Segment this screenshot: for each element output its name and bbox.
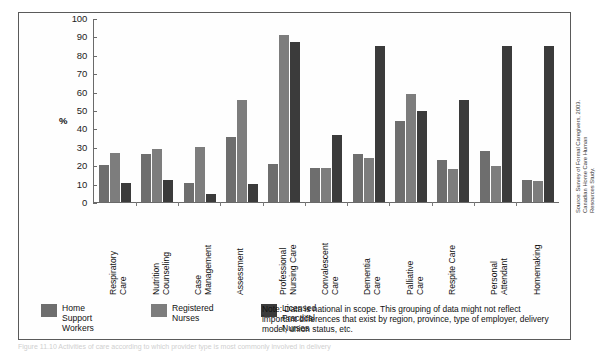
y-tick-label: 50 <box>57 106 87 116</box>
y-tick-label: 30 <box>57 143 87 153</box>
x-axis-category-cell: Personal Attendant <box>474 229 516 297</box>
x-axis-category-label: Palliative Care <box>406 229 425 295</box>
x-axis-category-label: Convalescent Care <box>321 229 340 295</box>
bar <box>141 154 151 202</box>
y-tick-label: 80 <box>57 51 87 61</box>
y-tick-mark <box>93 56 97 57</box>
legend-label: Registered Nurses <box>172 303 214 323</box>
chart-source: Source: Survey of Formal Caregivers, 200… <box>575 85 596 213</box>
x-axis-category-label: Respiratory Care <box>109 229 128 295</box>
x-axis-category-cell: Respiratory Care <box>93 229 135 297</box>
bar <box>544 46 554 202</box>
x-axis-category-cell: Nutrition Counseling <box>135 229 177 297</box>
bar <box>310 168 320 202</box>
bar <box>237 100 247 202</box>
x-axis-category-cell: Palliative Care <box>390 229 432 297</box>
x-axis-group-tick <box>516 202 517 206</box>
y-tick-label: 100 <box>57 14 87 24</box>
bar <box>184 183 194 202</box>
x-axis-category-cell: Dementia Care <box>347 229 389 297</box>
bar <box>417 111 427 203</box>
x-axis-category-label: Personal Attendant <box>490 229 509 295</box>
y-tick-mark <box>93 166 97 167</box>
x-axis-group-tick <box>432 202 433 206</box>
y-tick-mark <box>93 148 97 149</box>
bar <box>290 42 300 202</box>
y-tick-label: 0 <box>57 198 87 208</box>
bar <box>448 169 458 202</box>
bar <box>353 154 363 202</box>
x-axis-category-cell: Homemaking <box>517 229 559 297</box>
bar <box>480 151 490 202</box>
legend-swatch <box>41 304 57 317</box>
bar <box>279 35 289 202</box>
bar <box>248 184 258 202</box>
bar-group <box>432 19 474 202</box>
y-tick-mark <box>93 111 97 112</box>
bar <box>226 137 236 202</box>
bar-group <box>179 19 221 202</box>
bar <box>152 149 162 202</box>
figure-caption: Figure 11.10 Activities of care accordin… <box>18 343 578 351</box>
x-axis-group-tick <box>178 202 179 206</box>
y-axis-tick-labels: 1009080706050403020100 <box>57 19 87 203</box>
bar <box>364 158 374 202</box>
y-tick-label: 40 <box>57 125 87 135</box>
bar <box>99 165 109 202</box>
x-axis-group-tick <box>389 202 390 206</box>
chart-note: Note: Data is national in scope. This gr… <box>262 304 552 335</box>
bar <box>522 180 532 202</box>
y-tick-label: 90 <box>57 33 87 43</box>
bar-group <box>390 19 432 202</box>
x-axis-category-cell: Professional Nursing Care <box>262 229 304 297</box>
bar <box>110 153 120 202</box>
x-axis-group-tick <box>347 202 348 206</box>
bar <box>206 194 216 202</box>
y-tick-mark <box>93 185 97 186</box>
bar <box>502 46 512 202</box>
bar-group <box>136 19 178 202</box>
x-axis-category-cell: Assessment <box>220 229 262 297</box>
plot-area: % 1009080706050403020100 <box>57 19 562 227</box>
bar-group <box>94 19 136 202</box>
y-tick-mark <box>93 203 97 204</box>
legend-item: Home Support Workers <box>41 303 151 333</box>
bar <box>491 166 501 202</box>
bar <box>332 135 342 202</box>
bar-group <box>474 19 516 202</box>
x-axis-category-label: Nutrition Counseling <box>152 229 171 295</box>
y-tick-label: 60 <box>57 88 87 98</box>
x-axis-category-cell: Respite Care <box>432 229 474 297</box>
x-axis-category-label: Case Management <box>194 229 213 295</box>
y-tick-mark <box>93 129 97 130</box>
legend-swatch <box>151 304 167 317</box>
axes <box>93 19 559 203</box>
y-tick-mark <box>93 37 97 38</box>
x-axis-category-label: Homemaking <box>533 229 543 295</box>
bar <box>163 180 173 202</box>
x-axis-category-label: Dementia Care <box>363 229 382 295</box>
y-tick-label: 70 <box>57 69 87 79</box>
x-axis-group-tick <box>305 202 306 206</box>
legend-item: Registered Nurses <box>151 303 261 333</box>
bar <box>375 46 385 202</box>
y-tick-mark <box>93 19 97 20</box>
x-axis-category-label: Professional Nursing Care <box>279 229 298 295</box>
bar <box>195 147 205 202</box>
bar-groups <box>94 19 559 202</box>
y-tick-mark <box>93 74 97 75</box>
x-axis-category-label: Assessment <box>236 229 246 295</box>
x-axis-category-labels: Respiratory CareNutrition CounselingCase… <box>93 229 559 297</box>
bar <box>321 168 331 202</box>
bar <box>268 164 278 202</box>
x-axis-group-tick <box>474 202 475 206</box>
bar <box>121 183 131 202</box>
x-axis-category-cell: Convalescent Care <box>305 229 347 297</box>
bar <box>395 121 405 202</box>
bar-group <box>517 19 559 202</box>
x-axis-group-tick <box>263 202 264 206</box>
bar <box>459 100 469 202</box>
bar <box>533 181 543 202</box>
x-axis-group-tick <box>220 202 221 206</box>
